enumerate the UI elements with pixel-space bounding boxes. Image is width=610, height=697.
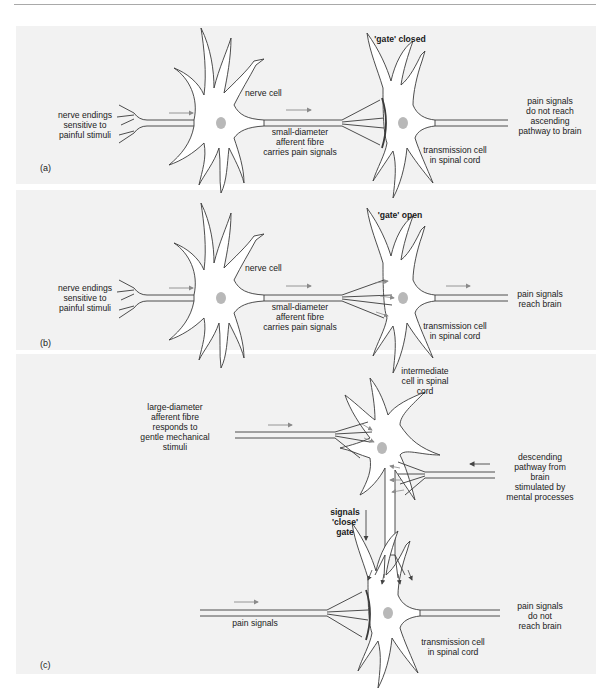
descending-pathway [425, 472, 495, 478]
label-transmission-cell-c: transmission cell in spinal cord [408, 637, 498, 657]
label-output-c: pain signals do not reach brain [505, 601, 575, 631]
label-intermediate-cell: intermediate cell in spinal cord [385, 366, 465, 396]
label-small-fibre-a: small-diameter afferent fibre carries pa… [250, 127, 350, 157]
transmission-cell-b [367, 208, 435, 373]
title-gate-open: 'gate' open [360, 210, 440, 220]
panel-b-diagram [117, 203, 508, 373]
panel-a-diagram [117, 28, 508, 198]
label-nerve-endings-a: nerve endings sensitive to painful stimu… [30, 110, 140, 140]
transmission-cell-a [367, 33, 435, 198]
ascending-axon-a [435, 120, 508, 126]
ascending-axon-b [435, 295, 508, 301]
label-nerve-endings-b: nerve endings sensitive to painful stimu… [30, 283, 140, 313]
ascending-axon-c [420, 610, 500, 616]
label-nerve-cell-a: nerve cell [245, 88, 282, 98]
label-signals-close-gate: signals 'close' gate [325, 507, 365, 537]
label-descending-pathway: descending pathway from brain stimulated… [495, 452, 585, 502]
title-gate-closed: 'gate' closed [360, 34, 440, 44]
pain-fibre-c [200, 610, 327, 616]
transmission-cell-c [352, 523, 420, 688]
label-small-fibre-b: small-diameter afferent fibre carries pa… [250, 302, 350, 332]
label-output-b: pain signals reach brain [505, 289, 575, 309]
small-fibre-b [264, 295, 342, 301]
panel-tag-c: (c) [40, 660, 51, 670]
large-fibre [235, 432, 335, 438]
label-transmission-cell-b: transmission cell in spinal cord [410, 321, 500, 341]
panel-tag-a: (a) [40, 163, 51, 173]
label-transmission-cell-a: transmission cell in spinal cord [410, 145, 500, 165]
small-fibre-a [264, 120, 342, 126]
label-output-a: pain signals do not reach ascending path… [505, 96, 595, 136]
panel-tag-b: (b) [40, 338, 51, 348]
label-nerve-cell-b: nerve cell [245, 263, 282, 273]
label-pain-signals-c: pain signals [215, 618, 295, 628]
label-large-fibre: large-diameter afferent fibre responds t… [120, 402, 230, 452]
